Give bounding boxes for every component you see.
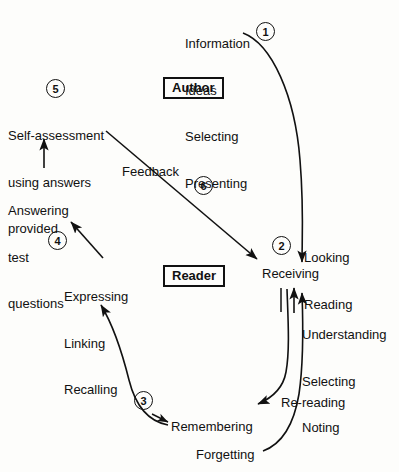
looking-label: Looking [304,250,352,266]
expressing-linking-recalling-block: Expressing Linking Recalling [64,258,128,429]
step-number-1: 1 [256,22,275,41]
forgetting-label: Forgetting [196,447,255,463]
expressing-label: Expressing [64,289,128,305]
answering-line-3: questions [8,296,69,312]
answering-test-questions-block: Answering test questions [8,172,69,343]
arrow-forgetting-to-receiving [263,293,303,451]
recalling-label: Recalling [64,382,128,398]
arrowhead-into-remembering [152,414,168,422]
understanding-selecting-noting-block: Understanding Selecting Noting [302,296,387,467]
receiving-label: Receiving [262,266,319,282]
step-number-5: 5 [46,79,65,98]
answering-line-1: Answering [8,203,69,219]
role-label-reader: Reader [163,265,225,287]
understanding-label: Understanding [302,327,387,343]
step-number-3: 3 [134,391,153,410]
re-reading-label: Re-reading [281,395,345,411]
step-number-2: 2 [272,236,291,255]
role-label-author: Author [163,77,224,99]
selecting-label: Selecting [302,374,387,390]
linking-label: Linking [64,336,128,352]
learning-cycle-diagram: Information Ideas Selecting Presenting A… [0,0,399,472]
author-activity-selecting: Selecting [185,129,250,145]
answering-line-2: test [8,250,69,266]
arrow-receiving-to-remembering [258,289,288,404]
self-assessment-line-1: Self-assessment [8,128,104,144]
step-number-6: 6 [194,176,213,195]
step-number-4: 4 [48,231,67,250]
noting-label: Noting [302,420,387,436]
remembering-label: Remembering [171,419,253,435]
author-activity-information: Information [185,36,250,52]
feedback-label: Feedback [122,164,179,180]
arrow-author-to-receiving [243,33,303,262]
